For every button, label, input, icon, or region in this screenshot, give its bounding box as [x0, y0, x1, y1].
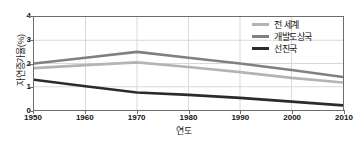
line-chart: 자연증가율(%) 01234 1950196019701980199020002… — [0, 0, 359, 142]
x-tick-label: 1950 — [13, 113, 53, 122]
chart-legend: 전 세계개발도상국선진국 — [252, 19, 340, 55]
x-tick-label: 1960 — [65, 113, 105, 122]
x-tick-label: 2000 — [272, 113, 312, 122]
legend-swatch-icon — [252, 35, 269, 38]
legend-swatch-icon — [252, 47, 269, 50]
x-tick-label: 1970 — [117, 113, 157, 122]
x-tick-label: 1980 — [169, 113, 209, 122]
x-tick-label: 2010 — [324, 113, 359, 122]
legend-label: 선진국 — [274, 44, 297, 54]
series-line — [34, 62, 343, 82]
legend-item[interactable]: 개발도상국 — [252, 31, 340, 42]
legend-item[interactable]: 전 세계 — [252, 19, 340, 30]
legend-label: 개발도상국 — [274, 32, 312, 42]
legend-item[interactable]: 선진국 — [252, 43, 340, 54]
x-axis-title: 연도 — [24, 124, 344, 137]
legend-label: 전 세계 — [274, 20, 299, 30]
series-line — [34, 80, 343, 106]
x-tick-mark — [344, 110, 345, 114]
x-tick-label: 1990 — [220, 113, 260, 122]
legend-swatch-icon — [252, 23, 269, 26]
